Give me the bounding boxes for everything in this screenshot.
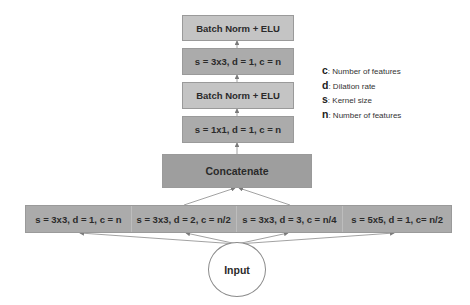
legend: c: Number of features d: Dilation rate s… [322,64,401,122]
batchnorm-elu-mid-box: Batch Norm + ELU [182,82,294,109]
branch-row: s = 3x3, d = 1, c = n s = 3x3, d = 2, c … [25,205,452,233]
input-node: Input [208,242,266,297]
batchnorm-elu-top-box: Batch Norm + ELU [182,15,294,41]
legend-item-n: n: Number of features [322,108,401,123]
branch-cell-2: s = 3x3, d = 2, c = n/2 [132,206,237,232]
input-label: Input [224,264,250,276]
conv-1x1-label: s = 1x1, d = 1, c = n [195,124,281,135]
concatenate-box: Concatenate [162,154,312,188]
conv-1x1-box: s = 1x1, d = 1, c = n [182,116,294,143]
legend-item-d: d: Dilation rate [322,79,401,94]
branch-cell-1: s = 3x3, d = 1, c = n [26,206,132,232]
legend-item-c: c: Number of features [322,64,401,79]
concatenate-label: Concatenate [205,165,268,177]
conv-3x3-box: s = 3x3, d = 1, c = n [182,48,294,75]
legend-item-s: s: Kernel size [322,93,401,108]
branch-cell-4: s = 5x5, d = 1, c= n/2 [343,206,451,232]
batchnorm-elu-top-label: Batch Norm + ELU [196,23,280,34]
batchnorm-elu-mid-label: Batch Norm + ELU [196,90,280,101]
conv-3x3-label: s = 3x3, d = 1, c = n [195,56,281,67]
branch-cell-3: s = 3x3, d = 3, c = n/4 [237,206,344,232]
